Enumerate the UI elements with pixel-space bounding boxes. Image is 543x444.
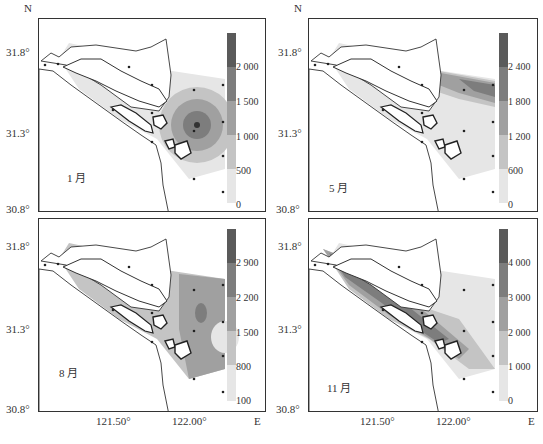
east-axis-label: E — [528, 415, 535, 427]
colorbar-tick: 600 — [508, 165, 523, 176]
colorbar-tick: 500 — [236, 165, 251, 176]
colorbar-tick: 1 800 — [508, 96, 531, 107]
colorbar-tick: 2 400 — [508, 61, 531, 72]
map-frame-may: 2 400 1 800 1 200 600 0 5 月 — [308, 18, 538, 212]
lon-tick: 122.00° — [172, 415, 207, 427]
month-label: 1 月 — [67, 169, 86, 185]
colorbar-tick: 100 — [236, 395, 251, 406]
lat-tick: 31.8° — [6, 46, 30, 58]
lat-tick: 31.8° — [278, 240, 302, 252]
colorbar-tick: 2 000 — [508, 327, 531, 338]
panel-nov: 4 000 3 000 2 000 1 000 0 11 月 31.8° 31.… — [270, 218, 543, 444]
lat-tick: 31.3° — [6, 127, 30, 139]
map-frame-aug: 2 900 2 200 1 500 800 100 8 月 — [38, 218, 266, 412]
panel-aug: 2 900 2 200 1 500 800 100 8 月 31.8° 31.3… — [0, 218, 270, 444]
colorbar-tick: 2 200 — [236, 292, 259, 303]
lon-tick: 122.00° — [436, 415, 471, 427]
lat-tick: 31.8° — [278, 46, 302, 58]
lat-tick: 31.3° — [6, 323, 30, 335]
lat-tick: 30.8° — [276, 403, 300, 415]
lat-tick: 31.3° — [278, 127, 302, 139]
north-axis-label: N — [294, 2, 302, 14]
lat-tick: 30.8° — [6, 203, 30, 215]
colorbar-tick: 3 000 — [508, 292, 531, 303]
colorbar-tick: 1 000 — [236, 131, 259, 142]
colorbar-tick: 1 500 — [236, 96, 259, 107]
colorbar-tick: 1 500 — [236, 327, 259, 338]
colorbar-tick: 0 — [508, 199, 513, 210]
lat-tick: 31.8° — [6, 240, 30, 252]
month-label: 5 月 — [329, 179, 348, 195]
map-frame-jan: 2 000 1 500 1 000 500 0 1 月 — [38, 18, 266, 212]
lon-tick: 121.50° — [96, 415, 131, 427]
lat-tick: 30.8° — [6, 403, 30, 415]
month-label: 11 月 — [327, 379, 351, 395]
colorbar-tick: 0 — [236, 199, 241, 210]
east-axis-label: E — [254, 415, 261, 427]
month-label: 8 月 — [59, 364, 78, 380]
lat-tick: 31.3° — [278, 323, 302, 335]
north-axis-label: N — [24, 2, 32, 14]
lon-tick: 121.50° — [360, 415, 395, 427]
panel-may: N 2 400 1 800 1 200 600 0 5 月 31.8° 31.3… — [270, 0, 543, 220]
colorbar-tick: 4 000 — [508, 257, 531, 268]
colorbar-tick: 2 900 — [236, 257, 259, 268]
colorbar-tick: 1 000 — [508, 361, 531, 372]
panel-jan: N 2 000 1 500 1 000 500 0 1 月 31.8° 31.3… — [0, 0, 270, 220]
colorbar-may — [499, 33, 508, 203]
colorbar-tick: 0 — [508, 395, 513, 406]
colorbar-jan — [227, 33, 236, 203]
lat-tick: 30.8° — [276, 203, 300, 215]
colorbar-tick: 1 200 — [508, 131, 531, 142]
colorbar-aug — [227, 229, 236, 401]
colorbar-nov — [499, 229, 508, 401]
colorbar-tick: 800 — [236, 361, 251, 372]
map-frame-nov: 4 000 3 000 2 000 1 000 0 11 月 — [308, 218, 538, 412]
colorbar-tick: 2 000 — [236, 61, 259, 72]
